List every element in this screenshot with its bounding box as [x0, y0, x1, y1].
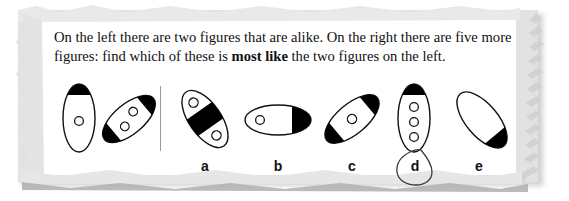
option-figure-a[interactable] [172, 84, 238, 154]
option-label-c[interactable]: c [340, 158, 364, 174]
prompt-figure-2 [96, 86, 162, 152]
inner-circle-2 [410, 118, 419, 127]
inner-circle [75, 117, 84, 126]
option-label-e[interactable]: e [467, 158, 491, 174]
inner-circle [256, 116, 265, 125]
option-figure-c[interactable] [318, 86, 386, 152]
option-figure-e[interactable] [446, 84, 518, 156]
option-figure-d[interactable] [392, 82, 436, 154]
option-label-a[interactable]: a [193, 158, 217, 174]
ellipse-body [448, 84, 516, 156]
inner-circle-1 [410, 103, 419, 112]
option-label-d[interactable]: d [403, 158, 427, 174]
group-divider [160, 86, 161, 151]
worksheet-screenshot: On the left there are two figures that a… [0, 0, 569, 201]
option-label-b[interactable]: b [266, 158, 290, 174]
black-cap-right [292, 103, 312, 137]
inner-circle-3 [410, 133, 419, 142]
ellipse-body [96, 87, 162, 151]
figures-row: a b c d e [0, 0, 569, 201]
option-figure-b[interactable] [244, 103, 312, 137]
